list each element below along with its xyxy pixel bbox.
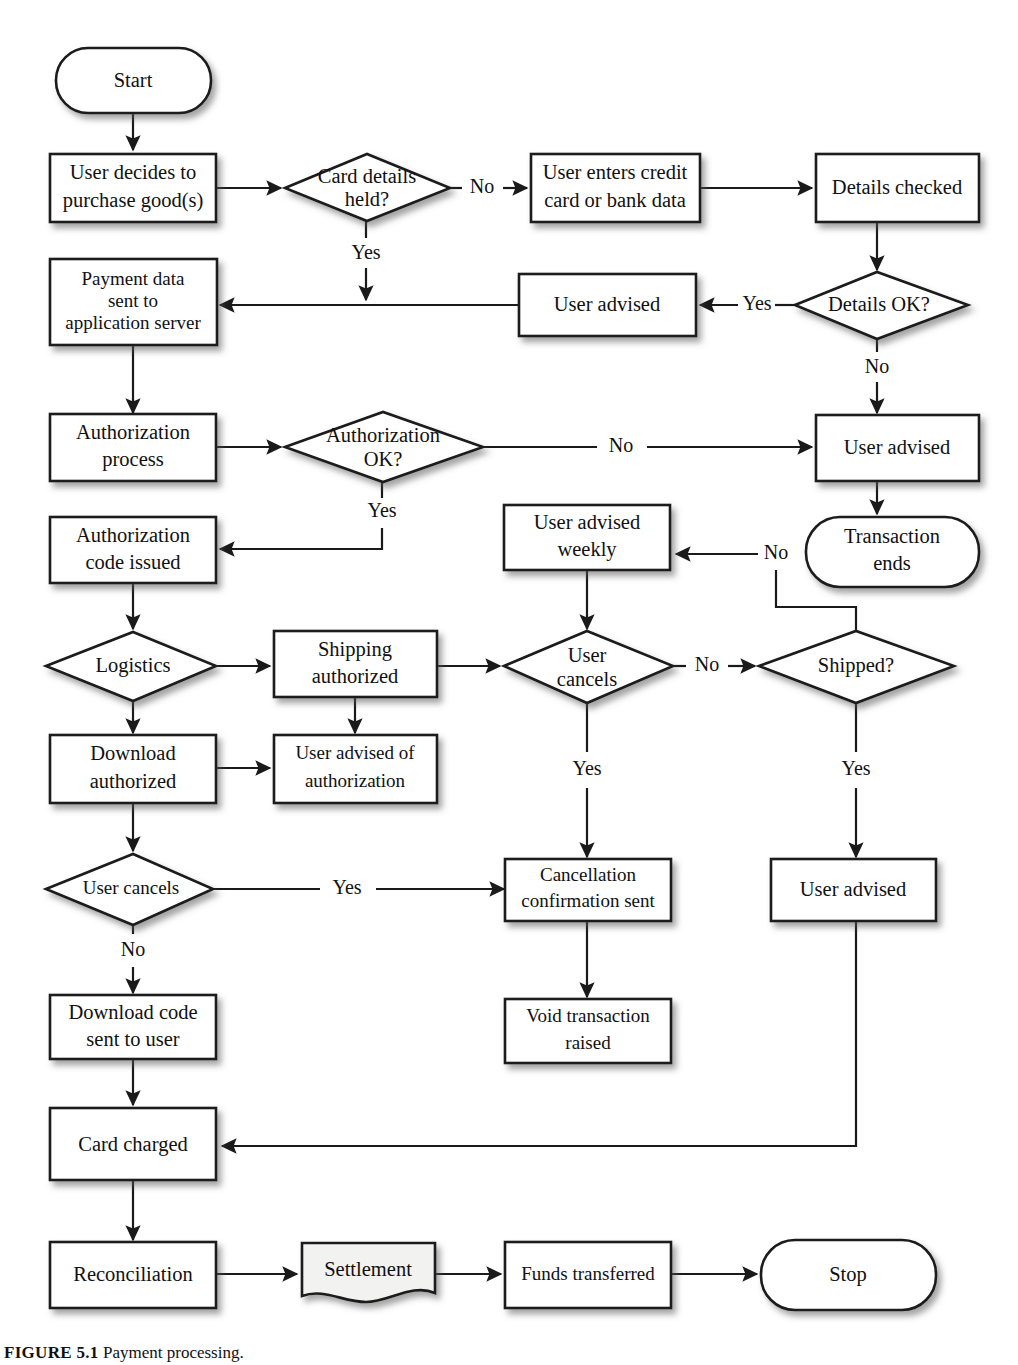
payment-data-sent-label-line2: sent to <box>108 290 158 311</box>
logistics-label: Logistics <box>95 654 170 677</box>
user-decides-label-line1: User decides to <box>70 161 196 183</box>
node-authorization-ok[interactable]: Authorization OK? <box>285 412 483 482</box>
authorization-code-label-line1: Authorization <box>76 524 190 546</box>
node-user-cancels-2[interactable]: User cancels <box>46 854 213 925</box>
node-download-authorized[interactable]: Download authorized <box>50 735 216 803</box>
user-advised-2-label: User advised <box>844 436 950 458</box>
user-cancels-1-label-line1: User <box>568 644 607 666</box>
card-details-held-label-line2: held? <box>345 188 389 210</box>
settlement-label: Settlement <box>324 1258 412 1280</box>
start-label: Start <box>114 69 153 91</box>
edge-label-card-details-no: No <box>470 175 494 197</box>
node-download-code-sent[interactable]: Download code sent to user <box>50 995 216 1059</box>
authorization-process-label-line1: Authorization <box>76 421 190 443</box>
void-transaction-label-line1: Void transaction <box>526 1005 650 1026</box>
edge-label-authorization-ok-yes: Yes <box>367 499 396 521</box>
edge-label-user-cancels-2-no: No <box>121 938 145 960</box>
edge-label-user-cancels-1-yes: Yes <box>572 757 601 779</box>
node-start[interactable]: Start <box>56 48 211 113</box>
node-details-checked[interactable]: Details checked <box>816 154 979 222</box>
node-void-transaction[interactable]: Void transaction raised <box>505 999 671 1063</box>
node-card-charged[interactable]: Card charged <box>50 1108 216 1180</box>
download-authorized-label-line1: Download <box>90 742 175 764</box>
user-advised-3-label: User advised <box>800 878 906 900</box>
user-enters-credit-label-line1: User enters credit <box>543 161 688 183</box>
authorization-ok-label-line1: Authorization <box>326 424 440 446</box>
figure-caption-label: FIGURE 5.1 <box>4 1343 99 1362</box>
shipping-authorized-label-line2: authorized <box>312 665 399 687</box>
node-authorization-code[interactable]: Authorization code issued <box>50 517 216 583</box>
user-advised-1-label: User advised <box>554 293 660 315</box>
node-shipped[interactable]: Shipped? <box>759 631 954 703</box>
card-details-held-label-line1: Card details <box>318 165 417 187</box>
download-code-sent-label-line1: Download code <box>68 1001 197 1023</box>
user-advised-weekly-label-line1: User advised <box>534 511 640 533</box>
reconciliation-label: Reconciliation <box>73 1263 193 1285</box>
details-checked-label: Details checked <box>832 176 962 198</box>
node-user-enters-credit[interactable]: User enters credit card or bank data <box>531 154 700 222</box>
download-authorized-label-line2: authorized <box>90 770 177 792</box>
edge-label-details-ok-no: No <box>865 355 889 377</box>
user-decides-label-line2: purchase good(s) <box>63 189 204 212</box>
node-stop[interactable]: Stop <box>761 1240 936 1310</box>
node-user-advised-weekly[interactable]: User advised weekly <box>504 505 670 570</box>
card-charged-label: Card charged <box>78 1133 187 1156</box>
edge-authorization-ok-yes-path <box>220 482 382 549</box>
edge-label-shipped-no: No <box>764 541 788 563</box>
authorization-ok-label-line2: OK? <box>364 448 403 470</box>
node-logistics[interactable]: Logistics <box>46 632 216 701</box>
flowchart-figure: User enters credit --> No down to Paymen… <box>0 0 1018 1365</box>
edge-label-shipped-yes: Yes <box>841 757 870 779</box>
details-ok-label: Details OK? <box>828 293 930 315</box>
transaction-ends-label-line1: Transaction <box>844 525 940 547</box>
node-cancellation-confirmation[interactable]: Cancellation confirmation sent <box>505 859 671 921</box>
node-authorization-process[interactable]: Authorization process <box>50 414 216 481</box>
figure-caption: FIGURE 5.1 Payment processing. <box>4 1343 244 1362</box>
cancellation-confirmation-label-line1: Cancellation <box>540 864 637 885</box>
node-layer: Start User decides to purchase good(s) C… <box>46 48 979 1310</box>
node-shipping-authorized[interactable]: Shipping authorized <box>274 631 437 697</box>
void-transaction-label-line2: raised <box>565 1032 611 1053</box>
authorization-code-label-line2: code issued <box>85 551 180 573</box>
user-cancels-2-label: User cancels <box>83 877 180 898</box>
cancellation-confirmation-label-line2: confirmation sent <box>521 890 655 911</box>
payment-processing-flowchart: User enters credit --> No down to Paymen… <box>0 0 1018 1365</box>
node-user-advised-of-auth[interactable]: User advised of authorization <box>274 735 437 803</box>
edge-label-details-ok-yes: Yes <box>742 292 771 314</box>
user-advised-of-auth-label-line2: authorization <box>305 770 406 791</box>
shipping-authorized-label-line1: Shipping <box>318 638 392 661</box>
download-code-sent-label-line2: sent to user <box>86 1028 180 1050</box>
authorization-process-label-line2: process <box>102 448 164 471</box>
edge-label-user-cancels-2-yes: Yes <box>332 876 361 898</box>
node-user-advised-2[interactable]: User advised <box>816 415 979 481</box>
edge-label-card-details-yes: Yes <box>351 241 380 263</box>
payment-data-sent-label-line3: application server <box>65 312 201 333</box>
transaction-ends-label-line2: ends <box>873 552 911 574</box>
node-user-cancels-1[interactable]: User cancels <box>504 631 673 703</box>
node-user-decides[interactable]: User decides to purchase good(s) <box>50 154 216 222</box>
node-funds-transferred[interactable]: Funds transferred <box>505 1242 671 1308</box>
node-settlement[interactable]: Settlement <box>302 1243 435 1302</box>
user-cancels-1-label-line2: cancels <box>557 668 617 690</box>
figure-caption-text: Payment processing. <box>103 1343 244 1362</box>
edge-label-authorization-ok-no: No <box>609 434 633 456</box>
user-enters-credit-label-line2: card or bank data <box>544 189 686 211</box>
node-card-details-held[interactable]: Card details held? <box>285 154 450 221</box>
node-payment-data-sent[interactable]: Payment data sent to application server <box>50 259 217 345</box>
node-user-advised-1[interactable]: User advised <box>519 274 696 336</box>
node-transaction-ends[interactable]: Transaction ends <box>806 517 979 587</box>
node-details-ok[interactable]: Details OK? <box>795 272 968 339</box>
edge-layer: User enters credit --> No down to Paymen… <box>121 113 889 1274</box>
funds-transferred-label: Funds transferred <box>521 1263 655 1284</box>
user-advised-weekly-label-line2: weekly <box>557 538 617 561</box>
stop-label: Stop <box>829 1263 867 1286</box>
edge-label-user-cancels-1-no: No <box>695 653 719 675</box>
user-advised-of-auth-label-line1: User advised of <box>295 742 415 763</box>
node-reconciliation[interactable]: Reconciliation <box>50 1242 216 1308</box>
shipped-label: Shipped? <box>818 654 894 677</box>
payment-data-sent-label-line1: Payment data <box>82 268 185 289</box>
node-user-advised-3[interactable]: User advised <box>771 859 936 921</box>
